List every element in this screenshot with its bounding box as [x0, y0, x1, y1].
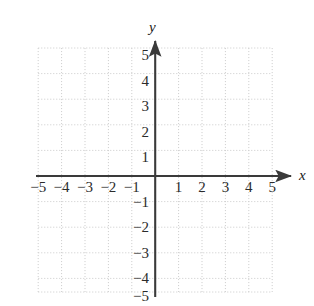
x-tick-label: 1	[166, 180, 192, 195]
x-tick-label: −2	[95, 180, 121, 195]
x-tick-label: 3	[212, 180, 238, 195]
y-tick-label: −2	[121, 220, 149, 235]
x-tick-label: −1	[119, 180, 145, 195]
x-tick-label: −3	[72, 180, 98, 195]
coordinate-plane-canvas	[0, 0, 314, 306]
x-tick-label: −5	[25, 180, 51, 195]
y-tick-label: 3	[121, 99, 149, 114]
y-tick-label: 5	[121, 48, 149, 63]
y-tick-label: −5	[121, 289, 149, 304]
x-tick-label: 2	[189, 180, 215, 195]
y-tick-label: −1	[121, 195, 149, 210]
x-axis-label: x	[299, 168, 306, 183]
x-tick-label: 5	[259, 180, 285, 195]
y-axis-label: y	[149, 20, 156, 35]
x-tick-label: −4	[49, 180, 75, 195]
y-tick-label: 1	[121, 150, 149, 165]
y-tick-label: −3	[121, 246, 149, 261]
y-tick-label: 2	[121, 125, 149, 140]
y-tick-label: 4	[121, 74, 149, 89]
y-tick-label: −4	[121, 271, 149, 286]
coordinate-plane-figure: x y −5 −4 −3 −2 −1 1 2 3 4 5 5 4 3 2 1 −…	[0, 0, 314, 306]
x-tick-label: 4	[236, 180, 262, 195]
